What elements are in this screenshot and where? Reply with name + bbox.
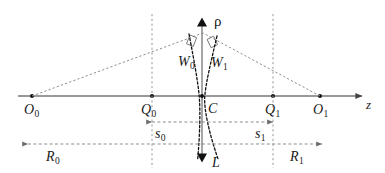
beam-geometry-diagram: ρ z O0 Q0 C Q1 O1 W0 W1 L s0 s1 R0 R1 bbox=[0, 0, 385, 173]
point-label-O1: O1 bbox=[313, 101, 328, 119]
beam-label-L: L bbox=[212, 154, 220, 170]
point-label-O0: O0 bbox=[24, 101, 39, 119]
rho-axis-label: ρ bbox=[214, 14, 222, 29]
beam-label-W1: W1 bbox=[211, 54, 228, 72]
point-label-Q0: Q0 bbox=[141, 101, 156, 119]
point-C-dot bbox=[200, 94, 204, 98]
dimension-label-R1: R1 bbox=[290, 148, 304, 166]
point-label-C: C bbox=[208, 100, 217, 116]
beam-label-W0: W0 bbox=[178, 53, 195, 71]
dimension-label-s1: s1 bbox=[255, 125, 266, 143]
dimension-label-R0: R0 bbox=[46, 148, 60, 166]
z-axis-label: z bbox=[366, 96, 371, 112]
point-label-Q1: Q1 bbox=[265, 101, 280, 119]
dimension-label-s0: s0 bbox=[155, 125, 166, 143]
cone-rays bbox=[32, 33, 320, 96]
